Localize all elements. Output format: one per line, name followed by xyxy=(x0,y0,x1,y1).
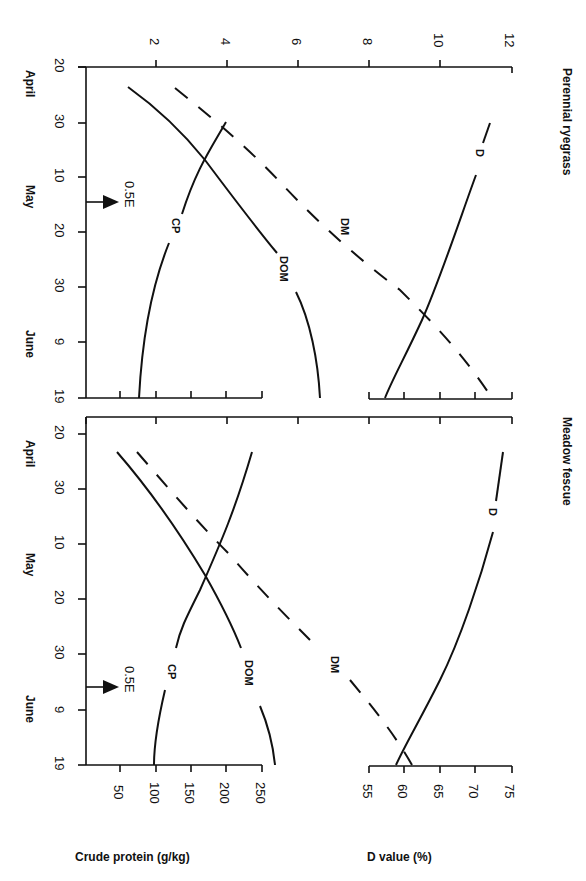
svg-text:DM: DM xyxy=(329,656,341,673)
svg-text:May: May xyxy=(23,553,37,577)
bottom-date-labels: 20 30 10 20 30 9 19 April May June xyxy=(23,425,67,770)
d-value-axis-label: D value (%) xyxy=(367,850,432,864)
bottom-dm-curve xyxy=(137,452,412,765)
crude-protein-axis-label: Crude protein (g/kg) xyxy=(75,850,190,864)
svg-text:June: June xyxy=(23,330,37,358)
top-cp-curve-2 xyxy=(139,243,169,398)
top-d-curve xyxy=(483,123,490,143)
svg-text:100: 100 xyxy=(147,782,162,804)
svg-text:April: April xyxy=(23,440,37,467)
svg-text:250: 250 xyxy=(253,782,268,804)
bottom-cp-curve xyxy=(176,452,252,648)
svg-text:June: June xyxy=(23,695,37,723)
bottom-cp-curve-2 xyxy=(154,690,165,765)
d-scale-labels: 55 60 65 70 75 xyxy=(360,784,517,798)
svg-text:10: 10 xyxy=(52,168,67,182)
cp-scale-labels: 50 100 150 200 250 xyxy=(111,782,268,804)
svg-text:75: 75 xyxy=(502,784,517,798)
svg-text:0.5E: 0.5E xyxy=(122,666,137,693)
svg-text:19: 19 xyxy=(52,756,67,770)
svg-text:4: 4 xyxy=(218,38,233,45)
top-scale-labels: 2 4 6 8 10 12 xyxy=(147,33,517,47)
panel-title-perennial-ryegrass: Perennial ryegrass xyxy=(560,68,574,175)
svg-text:DOM: DOM xyxy=(278,256,290,282)
svg-text:April: April xyxy=(23,70,37,97)
svg-text:20: 20 xyxy=(52,425,67,439)
svg-text:65: 65 xyxy=(431,784,446,798)
svg-text:8: 8 xyxy=(360,38,375,45)
svg-text:30: 30 xyxy=(52,480,67,494)
svg-text:DOM: DOM xyxy=(243,660,255,686)
svg-text:6: 6 xyxy=(289,38,304,45)
svg-text:May: May xyxy=(23,185,37,209)
svg-text:2: 2 xyxy=(147,38,162,45)
top-dom-curve xyxy=(128,87,277,253)
svg-text:20: 20 xyxy=(52,223,67,237)
top-dom-curve-2 xyxy=(296,292,320,398)
top-cp-curve xyxy=(182,122,226,214)
panel-title-meadow-fescue: Meadow fescue xyxy=(560,417,574,506)
svg-text:70: 70 xyxy=(466,784,481,798)
chart-canvas: 2 4 6 8 10 12 20 30 10 20 30 9 19 April … xyxy=(0,0,586,881)
svg-text:60: 60 xyxy=(395,784,410,798)
svg-text:DM: DM xyxy=(339,218,351,235)
svg-text:19: 19 xyxy=(52,389,67,403)
svg-text:10: 10 xyxy=(431,33,446,47)
bottom-dom-curve-2 xyxy=(260,706,275,765)
svg-text:D: D xyxy=(487,508,499,516)
svg-text:50: 50 xyxy=(111,785,126,799)
top-d-curve-2 xyxy=(385,175,476,398)
bottom-panel-axes xyxy=(78,417,512,773)
svg-text:20: 20 xyxy=(52,590,67,604)
bottom-marker-arrow: 0.5E xyxy=(86,666,137,694)
top-date-ticks xyxy=(78,67,86,398)
top-scale-ticks xyxy=(156,60,440,67)
svg-text:150: 150 xyxy=(182,782,197,804)
svg-text:30: 30 xyxy=(52,645,67,659)
svg-text:12: 12 xyxy=(502,33,517,47)
svg-text:55: 55 xyxy=(360,784,375,798)
svg-text:10: 10 xyxy=(52,535,67,549)
svg-text:CP: CP xyxy=(170,218,182,233)
bottom-curves: D DM DOM CP xyxy=(117,452,503,765)
svg-text:9: 9 xyxy=(52,706,67,713)
bottom-d-curve-2 xyxy=(396,532,493,765)
svg-text:9: 9 xyxy=(52,338,67,345)
svg-text:200: 200 xyxy=(217,782,232,804)
bottom-dom-curve xyxy=(117,452,241,648)
svg-text:20: 20 xyxy=(52,58,67,72)
svg-text:30: 30 xyxy=(52,278,67,292)
svg-text:CP: CP xyxy=(166,664,178,679)
svg-text:30: 30 xyxy=(52,114,67,128)
top-marker-arrow: 0.5E xyxy=(86,181,137,209)
top-dm-curve xyxy=(175,88,490,395)
top-curves: D DM DOM CP xyxy=(128,87,490,398)
bottom-d-curve xyxy=(496,452,503,501)
svg-text:D: D xyxy=(474,149,486,157)
svg-text:0.5E: 0.5E xyxy=(122,181,137,208)
top-date-labels: 20 30 10 20 30 9 19 April May June xyxy=(23,58,67,403)
